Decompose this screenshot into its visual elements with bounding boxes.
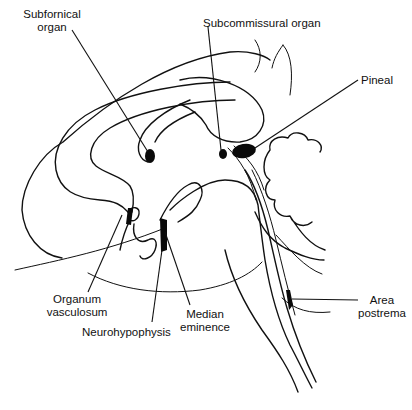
thalamus [180, 78, 264, 142]
label-line: Organum [46, 293, 108, 306]
cerebellum [255, 133, 325, 260]
subfornical-organ-blob [145, 149, 155, 163]
optic-line [15, 228, 165, 270]
brainstem-back [245, 170, 316, 382]
basal-curve [88, 262, 262, 292]
label-line: Area [352, 294, 412, 307]
upper-arc-2 [272, 45, 292, 95]
label-subcommissural-organ: Subcommissural organ [203, 17, 321, 30]
label-pineal: Pineal [361, 74, 393, 87]
pointer-median [165, 232, 190, 305]
infundibulum [160, 183, 202, 222]
spinal-cord [225, 250, 298, 392]
label-line: postrema [352, 307, 412, 320]
brain-drawing [0, 0, 412, 410]
subcommissural-organ-blob [219, 149, 227, 159]
label-line: Subcommissural organ [203, 17, 321, 30]
label-line: organ [22, 21, 82, 34]
label-line: Subfornical [22, 8, 82, 21]
pineal-blob [231, 142, 257, 160]
pointer-neurohypophysis [152, 250, 162, 322]
label-line: vasculosum [46, 306, 108, 319]
hypothalamus [120, 220, 156, 259]
brainstem-front [170, 180, 312, 388]
diagram: Subfornical organ Subcommissural organ P… [0, 0, 412, 410]
label-neurohypophysis: Neurohypophysis [82, 326, 171, 339]
label-median-eminence: Median eminence [180, 308, 230, 334]
label-subfornical-organ: Subfornical organ [22, 8, 82, 34]
upper-arc-1 [255, 40, 260, 72]
label-line: Pineal [361, 74, 393, 87]
pointer-area [292, 299, 358, 300]
label-line: eminence [180, 321, 230, 334]
label-line: Neurohypophysis [82, 326, 171, 339]
label-area-postrema: Area postrema [352, 294, 412, 320]
label-line: Median [180, 308, 230, 321]
label-organum-vasculosum: Organum vasculosum [46, 293, 108, 319]
pointer-subfornical [72, 30, 148, 152]
corpus-callosum-inner [91, 100, 235, 212]
